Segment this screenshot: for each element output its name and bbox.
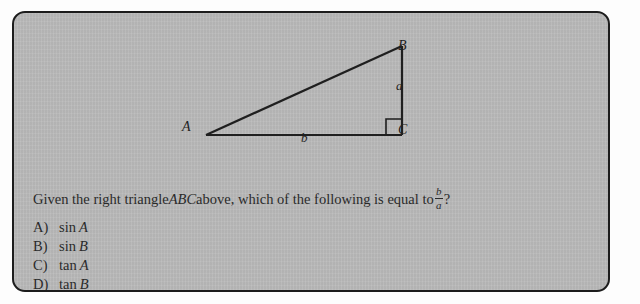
question-text-part2: above, which of the following is equal t… bbox=[196, 191, 434, 208]
answer-choice-d-function: tan bbox=[59, 276, 77, 292]
answer-choice-b-argument: B bbox=[79, 238, 88, 254]
answer-choice-d-argument: B bbox=[80, 276, 89, 292]
question-block: Given the right triangle ABC above, whic… bbox=[33, 187, 593, 292]
question-text-part3: ? bbox=[444, 191, 450, 208]
answer-choice-c-text: tanA bbox=[59, 256, 89, 275]
answer-choice-d-letter: D) bbox=[33, 275, 59, 292]
question-text-part1: Given the right triangle bbox=[33, 191, 169, 208]
answer-choice-c-letter: C) bbox=[33, 256, 59, 275]
answer-choice-a-text: sinA bbox=[59, 218, 88, 237]
answer-choice-c[interactable]: C) tanA bbox=[33, 256, 593, 275]
answer-choice-a[interactable]: A) sinA bbox=[33, 218, 593, 237]
vertex-label-b: B bbox=[398, 39, 407, 53]
vertex-label-a: A bbox=[182, 120, 191, 134]
answer-choice-d[interactable]: D) tanB bbox=[33, 275, 593, 292]
triangle-side-hypotenuse-AB bbox=[206, 46, 402, 135]
answer-choice-c-function: tan bbox=[59, 257, 77, 273]
answer-choice-d-text: tanB bbox=[59, 275, 89, 292]
answer-choice-c-argument: A bbox=[80, 257, 89, 273]
answer-choice-a-function: sin bbox=[59, 219, 76, 235]
question-card: A B C a b Given the right triangle ABC a… bbox=[12, 11, 610, 292]
question-stem: Given the right triangle ABC above, whic… bbox=[33, 187, 593, 212]
answer-choice-b[interactable]: B) sinB bbox=[33, 237, 593, 256]
side-label-a: a bbox=[396, 79, 403, 92]
triangle-figure: A B C a b bbox=[14, 13, 610, 173]
screenshot-root: A B C a b Given the right triangle ABC a… bbox=[0, 0, 640, 304]
fraction-numerator: b bbox=[435, 186, 443, 197]
answer-choice-a-letter: A) bbox=[33, 218, 59, 237]
answer-choice-a-argument: A bbox=[79, 219, 88, 235]
answer-choice-b-letter: B) bbox=[33, 237, 59, 256]
vertex-label-c: C bbox=[398, 123, 407, 137]
fraction-b-over-a: b a bbox=[435, 186, 443, 211]
answer-choice-b-function: sin bbox=[59, 238, 76, 254]
answer-choices-list: A) sinA B) sinB C) tanA bbox=[33, 218, 593, 292]
answer-choice-b-text: sinB bbox=[59, 237, 88, 256]
fraction-denominator: a bbox=[435, 200, 443, 211]
question-triangle-name: ABC bbox=[169, 191, 196, 208]
side-label-b: b bbox=[301, 131, 308, 144]
